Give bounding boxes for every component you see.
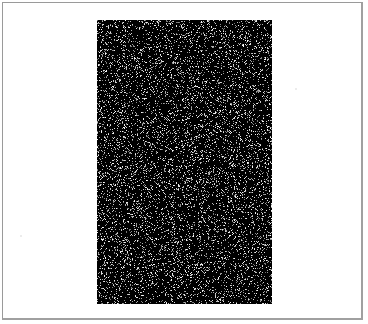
noise-image-panel — [97, 20, 272, 304]
speckle-noise-canvas — [97, 20, 272, 304]
stray-mark — [20, 235, 22, 237]
stray-mark — [295, 88, 297, 90]
